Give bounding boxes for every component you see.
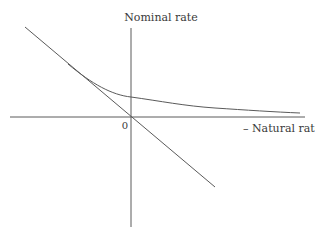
diagram-canvas: Nominal rate 0 – Natural rate [0, 0, 315, 237]
y-axis-label: Nominal rate [124, 11, 198, 24]
straight-diagonal-line [25, 27, 215, 187]
x-axis-label: – Natural rate [243, 122, 315, 135]
origin-label: 0 [122, 120, 128, 131]
convex-curve [68, 64, 300, 113]
